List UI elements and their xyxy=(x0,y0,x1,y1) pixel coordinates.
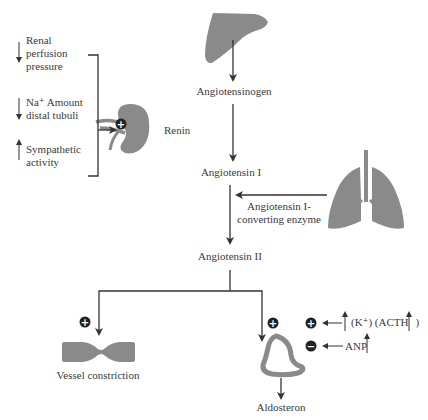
svg-text:+: + xyxy=(307,318,315,329)
plus-sign-icon: + xyxy=(80,317,91,328)
stimulus-bracket xyxy=(88,55,115,176)
branch-to-adrenal xyxy=(230,291,262,340)
ace-label: Angiotensin I- converting enzyme xyxy=(237,200,321,226)
vessel-icon xyxy=(62,342,135,362)
svg-text:+: + xyxy=(81,317,89,328)
vessel-constriction-label: Vessel constriction xyxy=(57,369,140,382)
lungs-icon xyxy=(328,150,404,229)
stimulus-line: Sympathetic xyxy=(26,143,81,156)
stimulus-line: Renal xyxy=(26,34,68,47)
stimulus-line: perfusion xyxy=(26,47,68,60)
svg-text:+: + xyxy=(269,318,277,329)
aldosteron-label: Aldosteron xyxy=(257,401,306,414)
liver-icon xyxy=(205,13,268,63)
angiotensinogen-label: Angiotensinogen xyxy=(196,85,271,98)
stimulus-line: pressure xyxy=(26,60,68,73)
stimulus-line: distal tubuli xyxy=(26,109,83,122)
k-acth-label: (K⁺) (ACTH) xyxy=(351,316,419,329)
svg-text:+: + xyxy=(117,119,125,130)
stimulus-line: Na⁺ Amount xyxy=(26,96,83,109)
anp-label: ANP xyxy=(345,340,367,353)
svg-text:−: − xyxy=(307,341,315,352)
angiotensin-1-label: Angiotensin I xyxy=(201,166,261,179)
stimulus-sympathetic-activity: Sympathetic activity xyxy=(26,143,81,169)
plus-sign-icon: + xyxy=(306,318,317,329)
renin-label: Renin xyxy=(164,124,190,137)
plus-sign-icon: + xyxy=(116,119,127,130)
ace-label-line: Angiotensin I- xyxy=(237,200,321,213)
adrenal-gland-icon xyxy=(263,336,303,375)
minus-sign-icon: − xyxy=(306,341,317,352)
stimulus-renal-perfusion: Renal perfusion pressure xyxy=(26,34,68,73)
stimulus-line: activity xyxy=(26,156,81,169)
ace-label-line: converting enzyme xyxy=(237,213,321,226)
plus-sign-icon: + xyxy=(268,318,279,329)
angiotensin-2-label: Angiotensin II xyxy=(198,250,262,263)
branch-to-vessel xyxy=(99,291,230,334)
stimulus-sodium-amount: Na⁺ Amount distal tubuli xyxy=(26,96,83,122)
k-acth-text: (K⁺) (ACTH xyxy=(351,316,408,328)
